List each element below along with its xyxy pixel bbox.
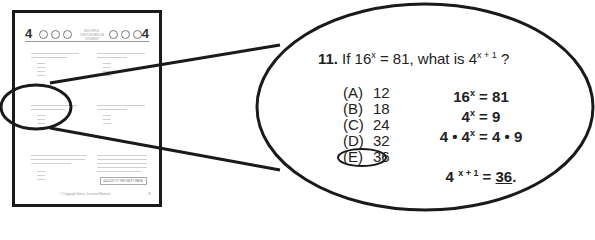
question-stem: 11.If 16x = 81, what is 4x + 1 ? (318, 50, 509, 67)
choice-b: (B)18 (343, 101, 390, 117)
work-line-1: 16x = 81 (411, 85, 551, 105)
question-number: 11. (318, 50, 338, 67)
choice-a: (A)12 (343, 85, 390, 101)
work-line-4: 4 x + 1 = 36. (411, 165, 551, 185)
callout-line-top (50, 45, 280, 83)
work-line-3: 4 • 4x = 4 • 9 (411, 125, 551, 145)
solution-work: 16x = 81 4x = 9 4 • 4x = 4 • 9 4 x + 1 =… (411, 85, 551, 185)
selected-answer-circle (337, 148, 387, 167)
final-answer: 36 (496, 168, 513, 185)
source-highlight-ellipse (1, 85, 71, 129)
choice-c: (C)24 (343, 117, 390, 133)
work-line-2: 4x = 9 (411, 105, 551, 125)
choice-d: (D)32 (343, 133, 390, 149)
callout-line-bottom (50, 128, 280, 170)
